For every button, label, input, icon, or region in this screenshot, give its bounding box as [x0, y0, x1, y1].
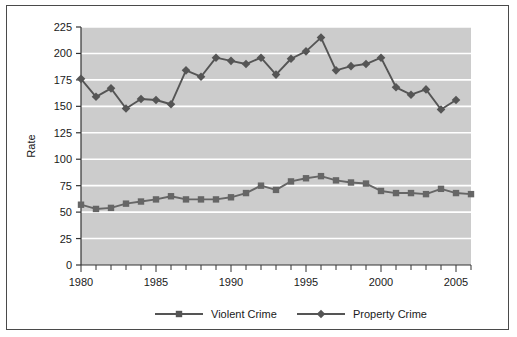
data-point-marker — [243, 190, 249, 196]
y-axis-tick-labels: 0255075100125150175200225 — [54, 21, 72, 271]
data-point-marker — [393, 190, 399, 196]
data-point-marker — [93, 206, 99, 212]
data-point-marker — [153, 196, 159, 202]
data-point-marker — [453, 190, 459, 196]
y-axis-ticks — [76, 27, 81, 265]
x-axis-minor-ticks — [81, 265, 471, 272]
data-point-marker — [468, 191, 474, 197]
x-tick-label: 1985 — [144, 276, 168, 288]
data-point-marker — [408, 190, 414, 196]
data-point-marker — [168, 193, 174, 199]
data-point-marker — [303, 175, 309, 181]
data-point-marker — [333, 177, 339, 183]
y-tick-label: 75 — [60, 180, 72, 192]
y-tick-label: 150 — [54, 100, 72, 112]
data-point-marker — [288, 178, 294, 184]
data-point-marker — [78, 202, 84, 208]
x-tick-label: 2005 — [444, 276, 468, 288]
x-axis-tick-labels: 198019851990199520002005 — [69, 276, 468, 288]
data-point-marker — [198, 196, 204, 202]
data-point-marker — [438, 186, 444, 192]
y-tick-label: 50 — [60, 206, 72, 218]
chart-legend: Violent CrimeProperty Crime — [155, 308, 427, 320]
data-point-marker — [138, 198, 144, 204]
x-tick-label: 1995 — [294, 276, 318, 288]
y-tick-label: 175 — [54, 74, 72, 86]
x-tick-label: 2000 — [369, 276, 393, 288]
data-point-marker — [318, 173, 324, 179]
chart-figure: 0255075100125150175200225 19801985199019… — [6, 5, 509, 330]
data-point-marker — [123, 200, 129, 206]
data-point-marker — [363, 180, 369, 186]
data-point-marker — [348, 179, 354, 185]
data-point-marker — [213, 196, 219, 202]
legend-label: Property Crime — [353, 308, 427, 320]
crime-rate-line-chart: 0255075100125150175200225 19801985199019… — [7, 6, 508, 329]
data-point-marker — [378, 188, 384, 194]
y-axis-title: Rate — [25, 134, 37, 157]
y-tick-label: 25 — [60, 233, 72, 245]
legend-label: Violent Crime — [211, 308, 277, 320]
data-point-marker — [423, 191, 429, 197]
x-tick-label: 1980 — [69, 276, 93, 288]
y-tick-label: 125 — [54, 127, 72, 139]
data-point-marker — [228, 194, 234, 200]
y-tick-label: 100 — [54, 153, 72, 165]
y-tick-label: 0 — [66, 259, 72, 271]
x-tick-label: 1990 — [219, 276, 243, 288]
data-point-marker — [273, 187, 279, 193]
y-tick-label: 225 — [54, 21, 72, 33]
data-point-marker — [317, 310, 326, 319]
data-point-marker — [183, 196, 189, 202]
data-point-marker — [176, 311, 182, 317]
data-point-marker — [108, 205, 114, 211]
plot-area-background — [81, 27, 471, 265]
data-point-marker — [258, 182, 264, 188]
y-tick-label: 200 — [54, 47, 72, 59]
